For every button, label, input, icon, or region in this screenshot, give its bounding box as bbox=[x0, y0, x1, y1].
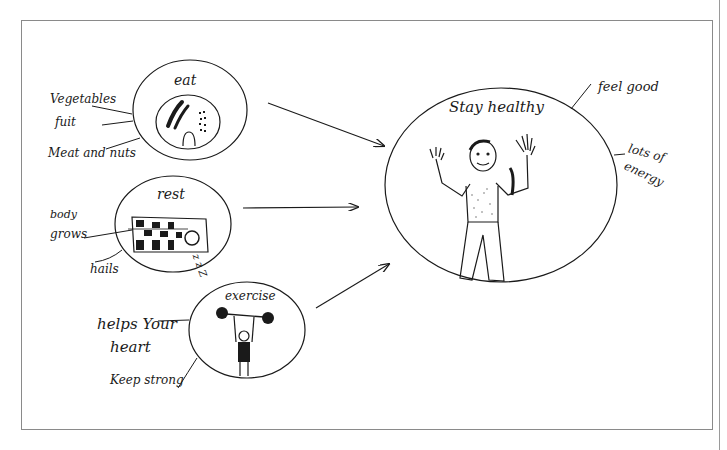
exercise-note-keep-strong: Keep strong bbox=[110, 373, 184, 387]
arrow-eat-to-goal bbox=[268, 103, 384, 146]
arrow-exercise-to-goal bbox=[316, 264, 389, 308]
rest-note-grows: grows bbox=[50, 227, 87, 241]
eat-node bbox=[92, 60, 247, 160]
eat-note-meat-nuts: Meat and nuts bbox=[48, 146, 136, 160]
eat-title: eat bbox=[174, 72, 196, 88]
exercise-title: exercise bbox=[225, 289, 276, 303]
eat-note-vegetables: Vegetables bbox=[50, 92, 116, 106]
arrow-rest-to-goal bbox=[243, 207, 358, 208]
happy-person-icon bbox=[430, 134, 535, 281]
arrows bbox=[243, 103, 389, 308]
weightlifter-icon bbox=[216, 307, 274, 376]
goal-title: Stay healthy bbox=[449, 98, 544, 116]
bed-icon bbox=[132, 217, 208, 252]
exercise-note-helps: helps Your bbox=[97, 315, 177, 333]
rest-note-body: body bbox=[50, 208, 77, 221]
rest-note-nails: hails bbox=[90, 262, 119, 276]
plate-icon bbox=[156, 95, 220, 149]
rest-title: rest bbox=[157, 186, 185, 202]
goal-note-feel-good: feel good bbox=[598, 79, 659, 94]
exercise-note-heart: heart bbox=[110, 338, 151, 356]
eat-note-fruit: fuit bbox=[55, 115, 76, 129]
